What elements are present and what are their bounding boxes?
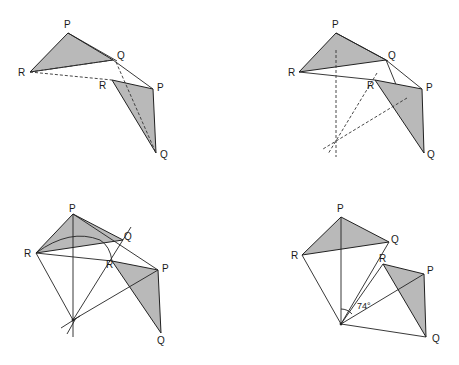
image-triangle — [112, 261, 161, 333]
label-image-q: Q — [157, 335, 165, 346]
arc-tick-1 — [61, 316, 80, 328]
rotation-construction-figure: P Q R R P Q P Q R R P Q P — [0, 0, 459, 365]
label-q: Q — [388, 50, 396, 61]
radius-r — [302, 255, 341, 324]
label-p: P — [332, 19, 339, 30]
angle-label: 74° — [357, 301, 371, 311]
panel-step-1: P Q R R P Q — [18, 19, 168, 160]
label-image-r: R — [367, 80, 374, 91]
label-image-q: Q — [432, 333, 440, 344]
label-q: Q — [124, 231, 132, 242]
label-r: R — [291, 250, 298, 261]
panel-step-2: P Q R R P Q — [288, 19, 435, 160]
label-image-q: Q — [427, 149, 435, 160]
angle-arc — [341, 309, 352, 314]
label-image-p: P — [427, 265, 434, 276]
image-triangle — [112, 80, 156, 153]
label-image-r: R — [99, 80, 106, 91]
arc-tick-2 — [67, 318, 76, 334]
dashed-r-to-image-r — [30, 72, 112, 80]
label-q: Q — [391, 234, 399, 245]
radius-r — [36, 253, 73, 320]
label-p: P — [69, 203, 76, 214]
line-r-to-image-r — [36, 253, 112, 261]
image-triangle — [375, 80, 424, 153]
radius-image-r — [341, 264, 383, 324]
centre-point — [72, 319, 75, 322]
label-p: P — [64, 19, 71, 30]
label-image-r: R — [379, 253, 386, 264]
image-triangle — [383, 264, 426, 337]
label-image-r: R — [106, 259, 113, 270]
label-r: R — [18, 67, 25, 78]
centre-of-rotation — [340, 323, 343, 326]
label-image-p: P — [162, 263, 169, 274]
label-image-q: Q — [160, 149, 168, 160]
line-r-to-image-r — [299, 72, 375, 80]
original-triangle — [36, 214, 123, 253]
label-r: R — [24, 248, 31, 259]
label-q: Q — [117, 50, 125, 61]
radius-image-q — [341, 324, 426, 337]
label-image-p: P — [426, 82, 433, 93]
original-triangle — [302, 217, 389, 255]
panel-step-4: 74° P Q R R P Q — [291, 203, 440, 344]
label-r: R — [288, 67, 295, 78]
panel-step-3: P Q R R P Q — [24, 203, 169, 346]
label-p: P — [337, 203, 344, 214]
label-image-p: P — [157, 82, 164, 93]
